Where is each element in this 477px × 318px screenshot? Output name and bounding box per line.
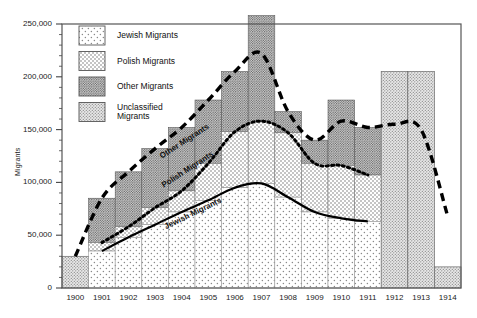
bar-jewish-1906 — [222, 188, 249, 288]
bar-polish-1907 — [248, 121, 275, 183]
y-tick-label-50000: 50,000 — [0, 230, 52, 239]
legend-label-0: Jewish Migrants — [117, 31, 178, 41]
legend-label-1: Polish Migrants — [117, 57, 175, 67]
bar-jewish-1911 — [355, 221, 382, 288]
y-tick-label-150000: 150,000 — [0, 125, 52, 134]
bar-unclassified-1913 — [408, 72, 435, 288]
bar-polish-1909 — [301, 163, 328, 212]
legend-label-2: Other Migrants — [117, 82, 173, 92]
y-tick-label-100000: 100,000 — [0, 177, 52, 186]
legend-label-3: Unclassified Migrants — [117, 103, 163, 122]
bar-jewish-1910 — [328, 218, 355, 288]
bar-polish-1910 — [328, 166, 355, 219]
legend-swatch-jewish-migrants — [79, 26, 105, 45]
bar-jewish-1902 — [115, 237, 142, 288]
bar-jewish-1901 — [89, 251, 116, 288]
legend-swatch-polish-migrants — [79, 52, 105, 71]
bar-jewish-1908 — [275, 197, 302, 288]
bar-other-1910 — [328, 100, 355, 165]
bar-jewish-1907 — [248, 183, 275, 288]
y-tick-label-250000: 250,000 — [0, 19, 52, 28]
bar-polish-1911 — [355, 175, 382, 221]
y-tick-label-0: 0 — [0, 283, 52, 292]
bar-jewish-1909 — [301, 212, 328, 288]
chart-canvas — [0, 0, 477, 318]
bar-other-1908 — [275, 112, 302, 133]
chart-root: Migrants — [0, 0, 477, 318]
legend-swatch-unclassified — [79, 103, 105, 122]
bar-other-1911 — [355, 127, 382, 175]
legend-swatch-other-migrants — [79, 77, 105, 96]
x-tick-label-1914: 1914 — [428, 293, 468, 302]
bar-unclassified-1914 — [434, 267, 461, 288]
bar-unclassified-1912 — [381, 72, 408, 288]
y-tick-label-200000: 200,000 — [0, 72, 52, 81]
bar-jewish-1903 — [142, 225, 169, 288]
bar-unclassified-1900 — [62, 256, 89, 288]
